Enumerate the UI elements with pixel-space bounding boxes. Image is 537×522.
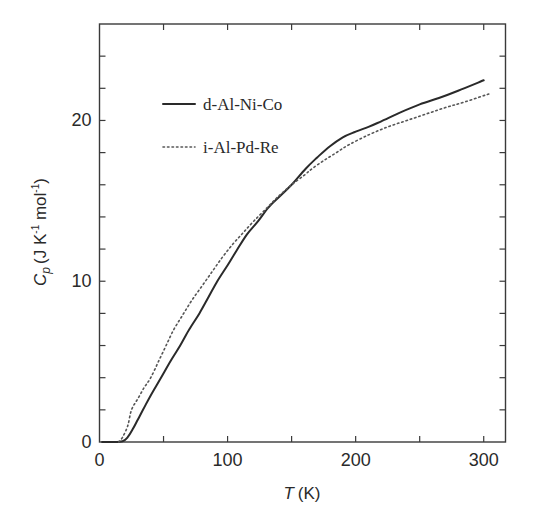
svg-text:Cp(J K-1 mol-1): Cp(J K-1 mol-1)	[30, 178, 53, 286]
legend: d-Al-Ni-Coi-Al-Pd-Re	[163, 95, 282, 157]
y-tick-label: 20	[71, 110, 91, 130]
series-d-al-ni-co-line	[102, 80, 484, 442]
legend-label: i-Al-Pd-Re	[203, 138, 279, 157]
data-curves	[102, 80, 491, 442]
legend-item-d-al-ni-co: d-Al-Ni-Co	[163, 95, 282, 114]
x-tick-label: 0	[94, 450, 104, 470]
series-i-al-pd-re-line	[119, 93, 492, 442]
x-tick-label: 200	[341, 450, 371, 470]
legend-item-i-al-pd-re: i-Al-Pd-Re	[163, 138, 279, 157]
x-tick-label: 100	[213, 450, 243, 470]
y-axis-title: Cp(J K-1 mol-1)	[30, 178, 53, 286]
legend-label: d-Al-Ni-Co	[203, 95, 282, 114]
x-axis-title: T(K)	[283, 484, 320, 503]
cp-vs-temperature-chart: 0100200300 01020 d-Al-Ni-Coi-Al-Pd-Re T(…	[0, 0, 537, 522]
x-tick-label: 300	[469, 450, 499, 470]
y-tick-label: 10	[71, 271, 91, 291]
y-tick-labels: 01020	[71, 110, 91, 452]
x-tick-labels: 0100200300	[94, 450, 498, 470]
y-tick-label: 0	[81, 432, 91, 452]
